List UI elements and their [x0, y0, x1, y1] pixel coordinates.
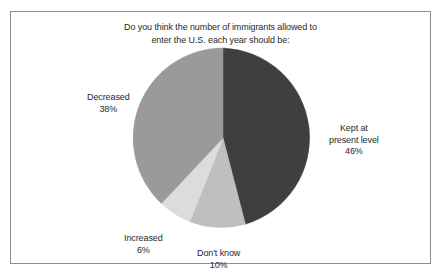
pie-label-increased-value: 6%	[124, 245, 163, 257]
pie-chart	[128, 43, 318, 233]
chart-frame: Do you think the number of immigrants al…	[10, 11, 431, 264]
pie-label-decreased-line-1: Decreased	[87, 92, 130, 104]
pie-label-increased: Increased 6%	[124, 233, 163, 256]
pie-chart-svg	[128, 43, 318, 233]
pie-label-kept-at-present-level: Kept at present level 46%	[329, 123, 379, 158]
pie-label-dont-know: Don't know 10%	[197, 248, 240, 271]
pie-label-dont-know-line-1: Don't know	[197, 248, 240, 260]
pie-label-kept-value: 46%	[329, 146, 379, 158]
pie-label-kept-line-2: present level	[329, 135, 379, 147]
pie-label-decreased-value: 38%	[87, 104, 130, 116]
pie-label-decreased: Decreased 38%	[87, 92, 130, 115]
pie-label-dont-know-value: 10%	[197, 260, 240, 272]
pie-label-increased-line-1: Increased	[124, 233, 163, 245]
chart-title-line-1: Do you think the number of immigrants al…	[11, 21, 430, 34]
pie-label-kept-line-1: Kept at	[329, 123, 379, 135]
